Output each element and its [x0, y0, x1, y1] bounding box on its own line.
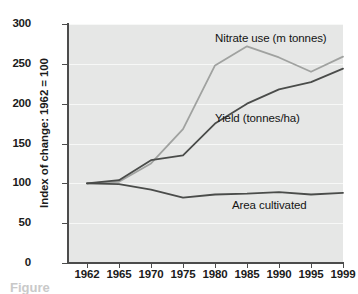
series-lines: [19, 9, 349, 271]
series-line: [87, 69, 343, 184]
figure-container: 050100150200250300 196219651970197519801…: [0, 0, 358, 294]
series-label-nitrate-use-m-tonnes: Nitrate use (m tonnes): [215, 32, 327, 44]
series-line: [87, 183, 343, 197]
figure-caption-text: Figure: [10, 283, 50, 294]
figure-caption-clipped: Figure: [0, 283, 358, 294]
line-chart: 050100150200250300 196219651970197519801…: [19, 9, 349, 271]
series-label-yield-tonnes-ha: Yield (tonnes/ha): [215, 112, 300, 124]
series-label-area-cultivated: Area cultivated: [232, 199, 307, 211]
